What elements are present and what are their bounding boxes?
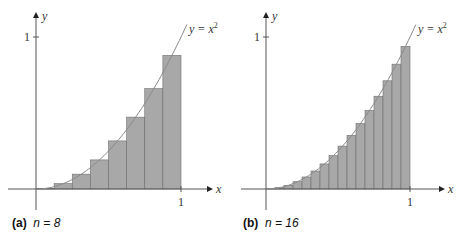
riemann-bar	[347, 135, 356, 189]
y-tick-label: 1	[24, 30, 30, 44]
caption-b-n: n = 16	[265, 216, 299, 230]
riemann-bar	[383, 81, 392, 189]
x-axis-label: x	[215, 182, 222, 196]
riemann-bar	[145, 89, 163, 189]
caption-a: (a) n = 8	[12, 216, 60, 230]
caption-a-n: n = 8	[33, 216, 60, 230]
riemann-bar	[329, 156, 338, 189]
riemann-bar	[72, 174, 90, 189]
x-tick-label: 1	[178, 195, 184, 209]
riemann-bar	[163, 55, 181, 189]
riemann-bar	[90, 160, 108, 189]
riemann-bar	[338, 146, 347, 189]
curve-label: y = x2	[417, 21, 447, 36]
y-axis-label: y	[41, 9, 48, 23]
y-axis-label: y	[271, 9, 278, 23]
x-axis-arrow-icon	[207, 186, 213, 192]
y-axis-arrow-icon	[263, 12, 269, 18]
riemann-bar	[127, 117, 145, 189]
riemann-bar	[320, 164, 329, 189]
riemann-bar	[365, 110, 374, 189]
y-tick-label: 1	[254, 30, 260, 44]
riemann-bar	[392, 64, 401, 189]
riemann-bar	[356, 124, 365, 189]
y-axis-arrow-icon	[33, 12, 39, 18]
riemann-sum-figure: 11xyy = x211xyy = x2	[0, 0, 457, 239]
x-axis-arrow-icon	[439, 186, 445, 192]
x-tick-label: 1	[407, 195, 413, 209]
riemann-bar	[374, 96, 383, 189]
riemann-bar	[401, 46, 410, 189]
curve-label: y = x2	[188, 21, 218, 36]
caption-b: (b) n = 16	[243, 216, 299, 230]
x-axis-label: x	[447, 182, 454, 196]
